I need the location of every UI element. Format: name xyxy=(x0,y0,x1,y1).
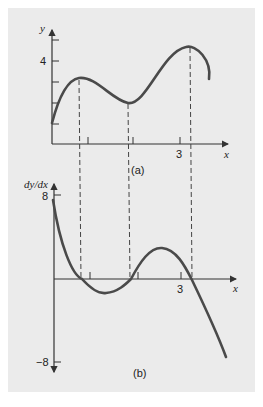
a-y-tick-label-4: 4 xyxy=(40,55,46,67)
b-y-tick-label-8: 8 xyxy=(42,190,48,202)
chart-svg: y 4 3 x (a) dy/dx 8 −8 3 x (b) xyxy=(0,0,263,407)
a-panel-label: (a) xyxy=(131,164,144,176)
plot-b: dy/dx 8 −8 3 x (b) xyxy=(24,178,238,379)
b-x-axis-label: x xyxy=(232,282,238,294)
a-y-axis-label: y xyxy=(39,22,45,34)
plot-a: y 4 3 x (a) xyxy=(39,22,229,176)
b-y-tick-label-neg8: −8 xyxy=(36,356,49,368)
b-panel-label: (b) xyxy=(133,367,146,379)
a-x-tick-label-3: 3 xyxy=(176,148,182,160)
a-curve-y xyxy=(52,47,209,123)
a-x-axis-label: x xyxy=(223,148,229,160)
b-x-tick-label-3: 3 xyxy=(177,283,183,295)
a-x-ticks xyxy=(88,137,180,144)
b-y-axis-label: dy/dx xyxy=(24,178,48,190)
